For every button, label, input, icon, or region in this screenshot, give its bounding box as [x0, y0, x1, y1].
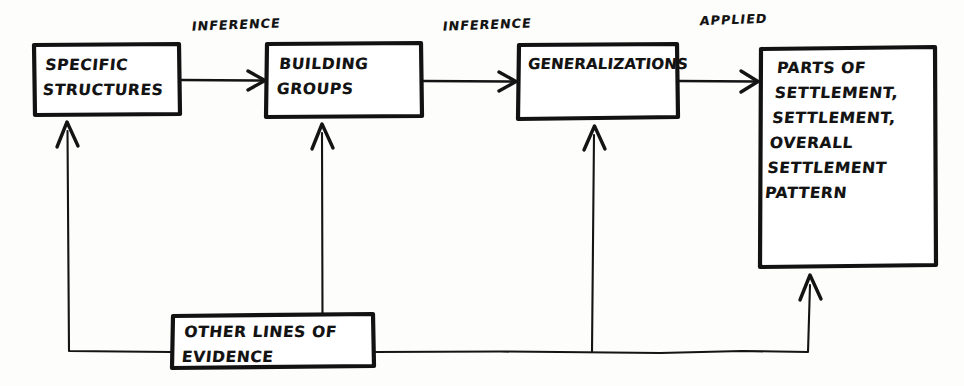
node-other-evidence-label: OTHER LINES OF EVIDENCE: [181, 320, 338, 370]
node-generalizations-label: GENERALIZATIONS: [527, 52, 689, 77]
edge-evidence-to-specific: [57, 122, 171, 352]
node-settlement-parts-label: PARTS OF SETTLEMENT, SETTLEMENT, OVERALL…: [764, 56, 902, 206]
node-building-groups-label: BUILDING GROUPS: [276, 52, 370, 102]
edge-generalizations-to-settlement: [679, 71, 758, 92]
edge-evidence-to-generalizations: [584, 126, 605, 352]
node-specific-structures-label: SPECIFIC STRUCTURES: [42, 53, 167, 103]
edge-building-to-generalizations: [423, 72, 516, 91]
diagram-canvas: SPECIFIC STRUCTURES BUILDING GROUPS GENE…: [0, 0, 964, 386]
edge-evidence-to-building: [312, 124, 333, 315]
edge-specific-to-building: [181, 71, 265, 90]
edge-evidence-to-settlement: [375, 275, 821, 353]
edge-label-applied: APPLIED: [699, 11, 768, 29]
